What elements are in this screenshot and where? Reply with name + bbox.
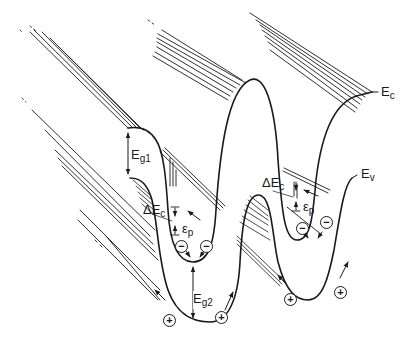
ec-curve — [128, 79, 372, 262]
hole-icon: + — [163, 314, 176, 327]
eps-p-right-label: εp — [303, 200, 314, 216]
delta-ec-right-label: ΔEc — [262, 176, 284, 192]
electron-icon: − — [296, 222, 309, 235]
ev-label: Ev — [361, 167, 375, 183]
ev-curve — [130, 178, 352, 322]
electron-icon: − — [320, 216, 333, 229]
ec-middle-plane-lines — [148, 20, 246, 100]
eg1-label: Eg1 — [131, 147, 151, 165]
delta-ec-left-label: ΔEc — [143, 203, 165, 219]
eg2-label: Eg2 — [193, 291, 213, 309]
electron-icon: − — [175, 240, 188, 253]
ev-middle-hatch — [237, 196, 284, 286]
hole-icon: + — [215, 311, 228, 324]
hole-icon: + — [284, 293, 297, 306]
electron-icon: − — [200, 240, 213, 253]
hole-icon: + — [334, 286, 347, 299]
eps-p-left-label: εp — [182, 222, 193, 238]
ec-label: Ec — [381, 85, 395, 101]
ec-left-plane-lines — [20, 26, 143, 130]
band-diagram — [0, 0, 415, 340]
